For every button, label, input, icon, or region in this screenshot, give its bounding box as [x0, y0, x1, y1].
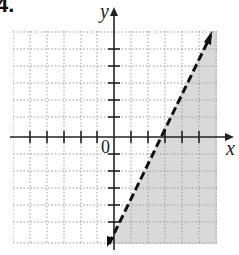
- boundary-arrow-top-icon: [204, 31, 212, 45]
- origin-label: 0: [101, 137, 110, 157]
- inequality-graph: y x 0: [0, 0, 239, 255]
- y-axis-label: y: [98, 0, 109, 23]
- y-axis-arrow-icon: [110, 7, 118, 16]
- x-axis-label: x: [225, 137, 235, 159]
